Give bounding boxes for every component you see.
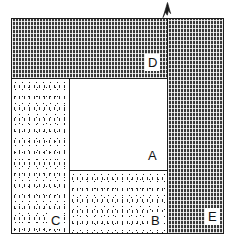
region-c: [11, 78, 70, 234]
region-label-c: C: [48, 212, 63, 229]
region-label-a: A: [148, 148, 157, 163]
region-e: [167, 18, 224, 234]
region-label-b: B: [148, 212, 163, 229]
region-label-d: D: [145, 54, 160, 71]
north-arrow-icon: [160, 1, 176, 19]
region-label-e: E: [205, 208, 220, 225]
diagram-canvas: A B C D E: [0, 0, 232, 244]
